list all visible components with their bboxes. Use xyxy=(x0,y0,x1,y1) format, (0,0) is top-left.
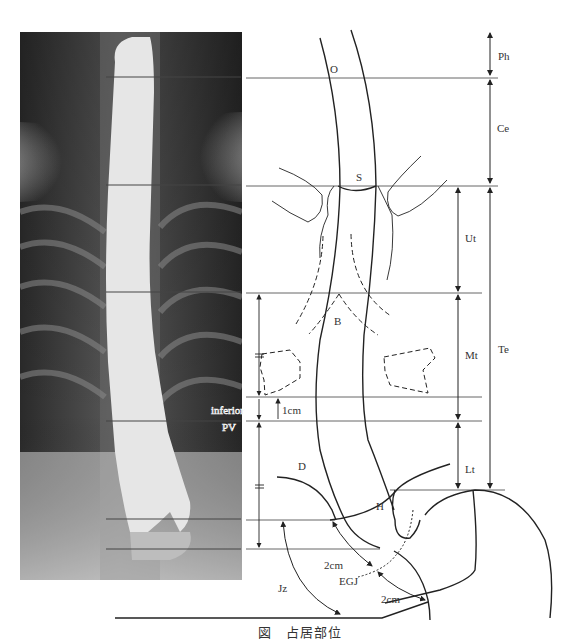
stomach-outlines xyxy=(115,464,552,620)
cardia-notch xyxy=(393,490,421,538)
left-main-bronchus-inner xyxy=(309,294,339,334)
stomach-fundus-outer xyxy=(425,490,552,618)
hiatus-h-curve xyxy=(330,464,450,520)
d-label: D xyxy=(298,460,306,472)
figure-caption: 図占居部位 xyxy=(258,622,356,641)
caption-title: 占居部位 xyxy=(286,625,342,640)
left-pulmonary-vein xyxy=(260,350,300,395)
xray-level-lines xyxy=(106,77,241,549)
pv-label: PV xyxy=(222,421,236,433)
jz-label: Jz xyxy=(278,582,287,594)
h-label: H xyxy=(376,500,384,512)
dashed-structures xyxy=(260,234,435,395)
b-label: B xyxy=(334,315,341,327)
region-ph-label: Ph xyxy=(498,50,510,62)
region-lt-label: Lt xyxy=(465,463,475,475)
region-ce-label: Ce xyxy=(497,122,509,134)
left-main-bronchus-outer xyxy=(296,236,323,324)
esophagus-location-figure: Ph Ce Te Ut Mt Lt 1cm inferior PV xyxy=(0,0,575,642)
two-cm-lower-label: 2cm xyxy=(381,593,400,605)
o-label: O xyxy=(330,63,338,75)
left-clavicle xyxy=(272,168,322,222)
egj-dotted-line xyxy=(358,510,413,577)
region-ut-label: Ut xyxy=(465,232,476,244)
diagram-level-lines xyxy=(246,78,505,549)
egj-label: EGJ xyxy=(339,575,359,587)
sphincter-curve xyxy=(338,186,376,191)
right-pulmonary-vein xyxy=(384,348,435,393)
region-mt-label: Mt xyxy=(465,349,478,361)
inferior-label: inferior xyxy=(211,404,244,416)
two-cm-upper-label: 2cm xyxy=(324,559,343,571)
esophagus-right-wall xyxy=(351,30,394,510)
right-trachea-edge xyxy=(378,186,393,280)
anatomy-diagram: Ph Ce Te Ut Mt Lt 1cm inferior PV xyxy=(0,0,575,642)
right-main-bronchus-inner xyxy=(339,294,378,335)
s-label: S xyxy=(356,171,362,183)
region-te-label: Te xyxy=(498,343,509,355)
caption-prefix: 図 xyxy=(258,625,272,640)
stomach-fundus-inner xyxy=(385,490,476,603)
stomach-lesser-curve xyxy=(394,551,430,620)
diaphragm-d-curve xyxy=(277,477,336,520)
esophagus-walls xyxy=(316,30,394,548)
one-cm-label: 1cm xyxy=(282,404,301,416)
two-cm-arrows xyxy=(283,522,425,614)
